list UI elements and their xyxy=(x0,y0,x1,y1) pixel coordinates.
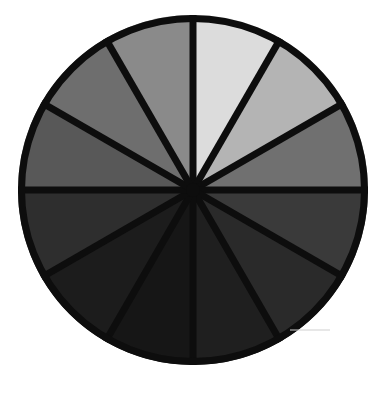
value-wheel-svg xyxy=(0,0,387,395)
grayscale-value-wheel-figure xyxy=(0,0,387,395)
wheel-hub xyxy=(186,183,200,197)
